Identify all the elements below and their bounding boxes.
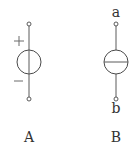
caption-b: B (111, 129, 121, 145)
current-source-b: a b B (104, 4, 128, 145)
circuit-diagram: A a b B (0, 0, 135, 149)
caption-a: A (23, 129, 35, 145)
plus-sign-icon (14, 36, 24, 46)
terminal-a[interactable] (114, 22, 118, 26)
terminal-label-a: a (112, 4, 120, 20)
terminal-top-a[interactable] (27, 22, 31, 26)
voltage-source-a: A (14, 22, 41, 145)
terminal-label-b: b (112, 100, 121, 116)
terminal-bottom-a[interactable] (27, 97, 31, 101)
